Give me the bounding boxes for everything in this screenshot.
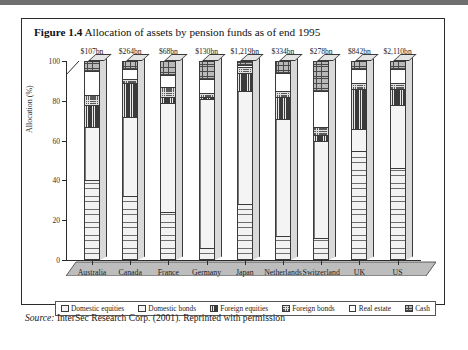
bar-segment <box>352 129 366 151</box>
x-axis-tick <box>398 260 399 265</box>
y-axis-tick <box>62 61 67 62</box>
legend-item[interactable]: Foreign bonds <box>282 304 335 313</box>
y-axis-label: Allocation (%) <box>25 85 34 133</box>
y-axis-tick-label: 20 <box>40 216 60 225</box>
bar-front-face <box>275 61 291 260</box>
bar-side-face <box>138 58 145 260</box>
bar-segment <box>85 71 99 95</box>
bar-segment <box>161 75 175 87</box>
bar-side-face <box>406 58 413 260</box>
legend-label: Cash <box>415 304 430 313</box>
bar-segment <box>391 61 405 69</box>
x-axis-tick <box>130 260 131 265</box>
bar-segment <box>352 151 366 260</box>
bar-segment <box>314 127 328 135</box>
bar-segment <box>391 168 405 260</box>
bar-segment <box>161 103 175 212</box>
figure-title-text: Allocation of assets by pension funds as… <box>84 26 320 38</box>
y-axis-tick <box>62 260 67 261</box>
source-text: InterSec Research Corp. (2001). Reprinte… <box>54 312 284 323</box>
bar-segment <box>238 73 252 91</box>
x-axis-tick <box>359 260 360 265</box>
y-axis-line <box>66 61 67 260</box>
bar-segment <box>123 61 137 69</box>
bar-front-face <box>313 61 329 260</box>
legend-swatch-icon <box>405 305 413 313</box>
bar-segment <box>85 61 99 71</box>
x-axis-tick <box>245 260 246 265</box>
bar-segment <box>200 99 214 248</box>
x-axis-tick <box>92 260 93 265</box>
bar-segment <box>161 61 175 75</box>
page-top-rule <box>0 0 468 5</box>
bar-segment <box>123 69 137 79</box>
y-axis-tick <box>62 180 67 181</box>
y-axis-tick-label: 60 <box>40 137 60 146</box>
bar-segment <box>314 141 328 239</box>
bar-front-face <box>122 61 138 260</box>
y-axis-tick <box>62 141 67 142</box>
legend-swatch-icon <box>349 305 357 313</box>
source-prefix: Source: <box>25 312 54 323</box>
bar-segment <box>276 73 290 91</box>
bar-segment <box>314 238 328 260</box>
bar-segment <box>238 91 252 204</box>
bar-segment <box>238 204 252 260</box>
bar-front-face <box>84 61 100 260</box>
bar-segment <box>352 69 366 83</box>
y-axis-tick-label: 40 <box>40 176 60 185</box>
bar-segment <box>123 117 137 197</box>
x-axis-tick <box>168 260 169 265</box>
bar-segment <box>85 105 99 127</box>
y-axis-tick <box>62 220 67 221</box>
bar-front-face <box>351 61 367 260</box>
bar-side-face <box>367 58 374 260</box>
legend-label: Foreign bonds <box>292 304 335 313</box>
bar-segment <box>200 79 214 93</box>
bar-total-value-label: $2,110bn <box>372 47 424 56</box>
x-axis-tick <box>283 260 284 265</box>
bar-segment <box>276 236 290 260</box>
legend-item[interactable]: Cash <box>405 304 430 313</box>
bar-segment <box>85 127 99 181</box>
bar-side-face <box>291 58 298 260</box>
figure-title: Figure 1.4 Allocation of assets by pensi… <box>34 26 320 38</box>
legend-label: Real estate <box>359 304 391 313</box>
x-axis-tick <box>321 260 322 265</box>
bar-segment <box>352 89 366 129</box>
bar-segment <box>85 95 99 105</box>
bar-segment <box>391 105 405 169</box>
bar-segment <box>123 83 137 117</box>
bar-segment <box>85 180 99 260</box>
y-axis-tick-label: 0 <box>40 256 60 265</box>
bar-segment <box>276 119 290 236</box>
bar-segment <box>200 248 214 260</box>
y-axis-tick-label: 80 <box>40 97 60 106</box>
bar-segment <box>276 61 290 73</box>
chart-plot-area: Allocation (%) 020406080100 AustraliaCan… <box>66 61 436 276</box>
bar-segment <box>123 196 137 260</box>
bar-segment <box>314 91 328 127</box>
bar-front-face <box>237 61 253 260</box>
bar-side-face <box>215 58 222 260</box>
y-axis-tick <box>62 101 67 102</box>
bar-segment <box>200 61 214 79</box>
figure-container: Figure 1.4 Allocation of assets by pensi… <box>21 18 445 305</box>
bar-segment <box>391 69 405 83</box>
bar-side-face <box>253 58 260 260</box>
x-axis-tick <box>207 260 208 265</box>
bar-front-face <box>160 61 176 260</box>
bar-front-face <box>390 61 406 260</box>
x-axis-category-label: US <box>370 268 426 277</box>
legend-item[interactable]: Real estate <box>349 304 391 313</box>
source-line: Source: InterSec Research Corp. (2001). … <box>25 312 285 323</box>
y-axis-tick-label: 100 <box>40 57 60 66</box>
bar-segment <box>276 97 290 119</box>
figure-number: Figure 1.4 <box>34 26 82 38</box>
bar-segment <box>161 212 175 260</box>
bar-segment <box>391 89 405 105</box>
bar-segment <box>314 61 328 91</box>
bar-segment <box>161 87 175 97</box>
x-axis-line <box>66 260 421 261</box>
bar-side-face <box>329 58 336 260</box>
